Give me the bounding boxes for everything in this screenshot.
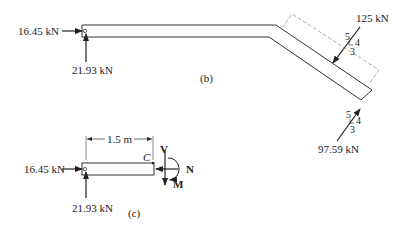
section-point-label: C bbox=[143, 151, 151, 163]
moment-label: M bbox=[173, 178, 184, 190]
section-point-c-dot bbox=[152, 162, 155, 165]
slope-b-top-rise: 4 bbox=[355, 37, 360, 48]
force-label-b-top-incline: 125 kN bbox=[356, 12, 389, 24]
slope-b-top-hyp: 5 bbox=[345, 31, 350, 42]
beam-c-segment bbox=[82, 163, 154, 175]
force-label-b-vertical: 21.93 kN bbox=[72, 64, 113, 76]
pin-b bbox=[83, 29, 86, 32]
caption-b: (b) bbox=[200, 72, 213, 85]
normal-label: N bbox=[186, 163, 194, 175]
dimension-label: 1.5 m bbox=[107, 133, 133, 145]
figure-c: 1.5 m C 16.45 kN 21.93 kN (c) V N M bbox=[24, 133, 194, 220]
figure-b: 16.45 kN 21.93 kN (b) 125 kN 5 4 3 97.59… bbox=[18, 12, 389, 155]
slope-b-bottom-run: 3 bbox=[350, 124, 355, 135]
dashed-region bbox=[282, 14, 379, 84]
dim-arrow-left bbox=[87, 137, 92, 141]
slope-b-bottom-hyp: 5 bbox=[346, 109, 351, 120]
force-label-b-horizontal: 16.45 kN bbox=[18, 25, 59, 37]
pin-c bbox=[83, 167, 86, 170]
caption-c: (c) bbox=[128, 207, 141, 220]
shear-label: V bbox=[160, 143, 168, 155]
slope-b-bottom-rise: 4 bbox=[356, 115, 361, 126]
slope-b-top-run: 3 bbox=[350, 46, 355, 57]
force-label-c-vertical: 21.93 kN bbox=[72, 202, 113, 214]
force-label-b-bottom-incline: 97.59 kN bbox=[318, 143, 359, 155]
force-label-c-horizontal: 16.45 kN bbox=[24, 163, 65, 175]
dim-arrow-right bbox=[147, 137, 152, 141]
diagram-canvas: 16.45 kN 21.93 kN (b) 125 kN 5 4 3 97.59… bbox=[0, 0, 406, 232]
beam-b-outline bbox=[82, 25, 372, 100]
